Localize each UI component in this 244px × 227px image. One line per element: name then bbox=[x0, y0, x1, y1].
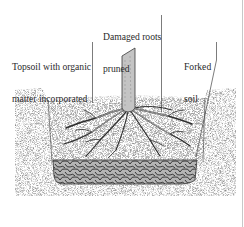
label-topsoil: Topsoil with organic matter incorporated bbox=[12, 41, 91, 115]
label-forked-soil-line2: soil bbox=[184, 94, 211, 105]
label-topsoil-line1: Topsoil with organic bbox=[12, 62, 91, 73]
forked-soil-layer bbox=[53, 160, 197, 184]
label-damaged-roots: Damaged roots pruned bbox=[103, 11, 161, 85]
label-forked-soil-line1: Forked bbox=[184, 62, 211, 73]
label-damaged-roots-line2: pruned bbox=[103, 64, 161, 75]
label-topsoil-line2: matter incorporated bbox=[12, 94, 91, 105]
label-forked-soil: Forked soil bbox=[184, 41, 211, 115]
label-damaged-roots-line1: Damaged roots bbox=[103, 32, 161, 43]
